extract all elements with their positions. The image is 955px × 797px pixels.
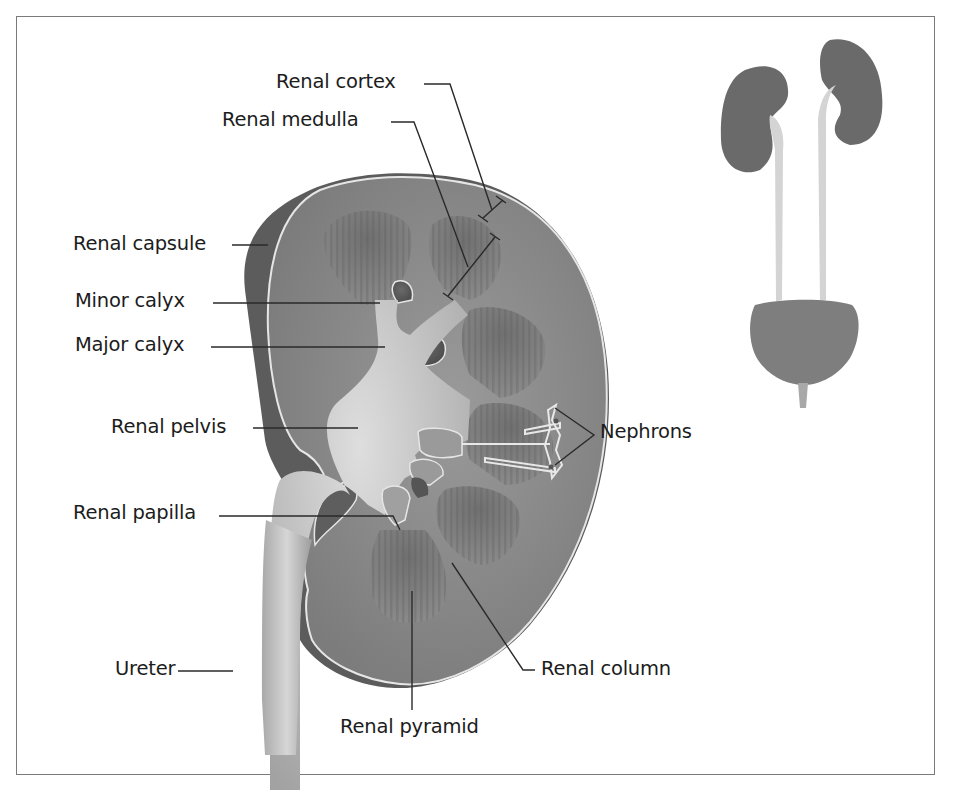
kidney-main [244, 173, 609, 790]
inset-bladder [750, 300, 858, 385]
label-major-calyx: Major calyx [75, 335, 184, 355]
label-minor-calyx: Minor calyx [75, 291, 185, 311]
label-renal-medulla: Renal medulla [222, 110, 359, 130]
label-renal-column: Renal column [541, 659, 671, 679]
label-renal-papilla: Renal papilla [73, 503, 196, 523]
label-renal-pyramid: Renal pyramid [340, 717, 479, 737]
label-ureter: Ureter [115, 659, 175, 679]
label-renal-pelvis: Renal pelvis [111, 417, 226, 437]
label-renal-capsule: Renal capsule [73, 234, 206, 254]
label-renal-cortex: Renal cortex [276, 72, 396, 92]
inset-urethra [798, 383, 808, 408]
inset-right-ureter [818, 85, 836, 302]
label-nephrons: Nephrons [600, 422, 692, 442]
urinary-system-inset [721, 39, 883, 408]
